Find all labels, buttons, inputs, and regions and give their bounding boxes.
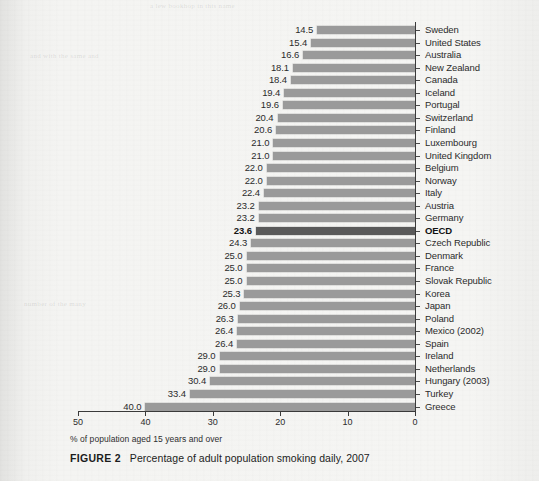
bar	[293, 64, 415, 72]
bar	[276, 126, 415, 134]
bar-value-label: 18.4	[241, 74, 287, 85]
category-label: Spain	[425, 338, 449, 349]
y-axis-tick	[416, 206, 420, 207]
bar-value-label: 16.6	[253, 49, 299, 60]
bar-value-label: 14.5	[267, 24, 313, 35]
bar-row: 24.3Czech Republic	[0, 238, 539, 249]
y-axis-tick	[416, 218, 420, 219]
category-label: Luxembourg	[425, 137, 477, 148]
bar	[238, 315, 415, 323]
bar	[317, 26, 415, 34]
bar-value-label: 29.0	[170, 350, 216, 361]
bar	[311, 39, 415, 47]
category-label: New Zealand	[425, 62, 480, 73]
bar-row: 26.4Mexico (2002)	[0, 326, 539, 337]
y-axis-tick	[416, 356, 420, 357]
bar-row: 14.5Sweden	[0, 25, 539, 36]
bar	[247, 264, 416, 272]
bar	[259, 202, 415, 210]
category-label: Portugal	[425, 99, 460, 110]
category-label: United Kingdom	[425, 150, 491, 161]
bar-value-label: 23.2	[209, 200, 255, 211]
bar-row: 33.4Turkey	[0, 389, 539, 400]
bar-value-label: 22.0	[217, 162, 263, 173]
bar	[283, 101, 415, 109]
y-axis-tick	[416, 156, 420, 157]
bar-value-label: 20.6	[226, 124, 272, 135]
bar	[247, 252, 416, 260]
category-label: Austria	[425, 200, 454, 211]
y-axis-tick	[416, 256, 420, 257]
bar-value-label: 30.4	[160, 375, 206, 386]
bar-value-label: 18.1	[243, 62, 289, 73]
x-axis-tick	[78, 412, 79, 416]
bar	[190, 390, 415, 398]
bar-value-label: 29.0	[170, 363, 216, 374]
bar-value-label: 26.3	[188, 313, 234, 324]
y-axis-line	[415, 22, 416, 411]
bar-value-label: 21.0	[223, 137, 269, 148]
y-axis-tick	[416, 407, 420, 408]
figure-caption: FIGURE 2Percentage of adult population s…	[70, 452, 370, 464]
bar	[278, 114, 415, 122]
bar	[259, 214, 415, 222]
bar-value-label: 40.0	[95, 401, 141, 412]
y-axis-tick	[416, 30, 420, 31]
x-axis-tick-label: 20	[265, 417, 295, 427]
category-label: Ireland	[425, 350, 453, 361]
bar-value-label: 26.4	[187, 338, 233, 349]
y-axis-tick	[416, 181, 420, 182]
bar-row: 29.0Netherlands	[0, 364, 539, 375]
y-axis-tick	[416, 143, 420, 144]
category-label: Canada	[425, 74, 458, 85]
y-axis-tick	[416, 381, 420, 382]
bar-row: 26.0Japan	[0, 301, 539, 312]
category-label: Korea	[425, 288, 450, 299]
y-axis-tick	[416, 80, 420, 81]
bar	[210, 377, 415, 385]
y-axis-tick	[416, 281, 420, 282]
category-label: Turkey	[425, 388, 453, 399]
y-axis-tick	[416, 344, 420, 345]
bar-row: 19.6Portugal	[0, 100, 539, 111]
x-axis-tick-label: 30	[198, 417, 228, 427]
bar-row: 25.0France	[0, 263, 539, 274]
category-label: Sweden	[425, 24, 459, 35]
x-axis-tick	[280, 412, 281, 416]
x-axis-tick-label: 50	[63, 417, 93, 427]
bar	[284, 89, 415, 97]
category-label: Greece	[425, 401, 456, 412]
bar-value-label: 19.6	[233, 99, 279, 110]
bar	[145, 403, 415, 411]
category-label: Mexico (2002)	[425, 325, 484, 336]
bar-row: 23.2Austria	[0, 201, 539, 212]
bar-row: 22.0Belgium	[0, 163, 539, 174]
bar-row: 21.0Luxembourg	[0, 138, 539, 149]
bar-value-label: 21.0	[223, 150, 269, 161]
bar	[240, 302, 415, 310]
category-label: Japan	[425, 300, 450, 311]
y-axis-tick	[416, 319, 420, 320]
bar-chart: 14.5Sweden15.4United States16.6Australia…	[0, 0, 539, 481]
category-label: Netherlands	[425, 363, 475, 374]
category-label: United States	[425, 37, 481, 48]
category-label: Denmark	[425, 250, 463, 261]
bar-highlighted	[256, 227, 415, 235]
y-axis-tick	[416, 43, 420, 44]
category-label: Slovak Republic	[425, 275, 492, 286]
bar-row: 20.6Finland	[0, 125, 539, 136]
bar	[264, 189, 415, 197]
y-axis-tick	[416, 268, 420, 269]
bar-value-label: 25.0	[197, 262, 243, 273]
bar-value-label: 22.0	[217, 175, 263, 186]
bar-row: 22.0Norway	[0, 176, 539, 187]
category-label: Iceland	[425, 87, 455, 98]
y-axis-tick	[416, 168, 420, 169]
bar	[220, 365, 415, 373]
bar-value-label: 23.2	[209, 212, 255, 223]
bar-row: 16.6Australia	[0, 50, 539, 61]
bar-value-label: 24.3	[201, 237, 247, 248]
y-axis-tick	[416, 294, 420, 295]
bar-row: 20.4Switzerland	[0, 113, 539, 124]
y-axis-tick	[416, 243, 420, 244]
